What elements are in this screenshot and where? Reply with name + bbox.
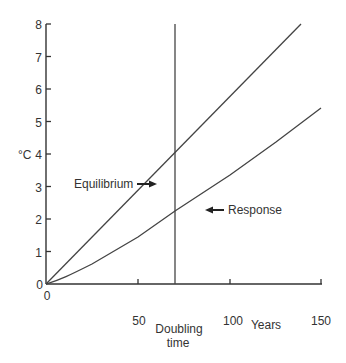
response-label: Response bbox=[228, 203, 282, 217]
y-tick-labels: 8 7 6 5 4 3 2 1 0 bbox=[35, 18, 43, 292]
x-tick-label: 0 bbox=[44, 289, 51, 303]
x-axis-label: Years bbox=[251, 318, 281, 332]
x-tick-label: 50 bbox=[132, 314, 146, 328]
axes bbox=[46, 24, 322, 284]
y-tick-label: 7 bbox=[35, 51, 42, 65]
y-tick-label: 1 bbox=[35, 246, 42, 260]
y-tick-label: 0 bbox=[36, 278, 43, 292]
response-arrow-icon bbox=[205, 207, 224, 214]
y-tick-label: 4 bbox=[35, 148, 42, 162]
y-tick-label: 2 bbox=[35, 213, 42, 227]
response-series bbox=[46, 108, 321, 284]
x-tick-label: 150 bbox=[311, 314, 331, 328]
y-axis-label: °C bbox=[18, 148, 32, 162]
y-tick-label: 8 bbox=[35, 18, 42, 32]
y-tick-label: 5 bbox=[35, 116, 42, 130]
doubling-time-label-2: time bbox=[167, 336, 190, 350]
x-ticks bbox=[138, 279, 321, 284]
equilibrium-label: Equilibrium bbox=[74, 177, 133, 191]
x-tick-label: 100 bbox=[223, 314, 243, 328]
equilibrium-series bbox=[46, 24, 301, 284]
y-tick-label: 6 bbox=[35, 83, 42, 97]
climate-response-chart: 8 7 6 5 4 3 2 1 0 °C 0 50 100 150 Years … bbox=[0, 0, 346, 363]
y-ticks bbox=[46, 24, 51, 252]
doubling-time-label: Doubling bbox=[155, 322, 202, 336]
y-tick-label: 3 bbox=[35, 181, 42, 195]
